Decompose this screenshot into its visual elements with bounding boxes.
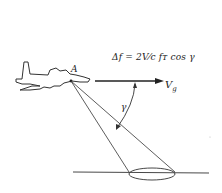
- doppler-formula: Δf = 2V⁄c fᴛ cos γ: [112, 52, 195, 62]
- arc-arrow-top-icon: [133, 82, 137, 88]
- aircraft-icon: [16, 62, 90, 90]
- point-a-label: A: [71, 64, 78, 74]
- arrow-head-icon: [155, 78, 164, 84]
- velocity-label: Vg: [165, 79, 177, 93]
- velocity-vector: [95, 78, 164, 84]
- arc-arrow-bottom-icon: [116, 124, 121, 130]
- ground-line: [73, 172, 209, 173]
- doppler-radar-diagram: [0, 0, 222, 193]
- radar-beam-cone: [71, 81, 175, 172]
- velocity-subscript: g: [172, 85, 176, 93]
- angle-gamma-label: γ: [121, 102, 126, 112]
- ground-footprint-ellipse: [129, 168, 175, 180]
